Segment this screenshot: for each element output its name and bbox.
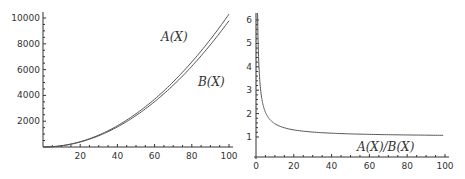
y-tick-label: 5 [246, 38, 252, 48]
x-tick-label: 40 [112, 151, 124, 161]
x-tick-label: 0 [253, 161, 259, 171]
label-ratio: A(X)/B(X) [356, 140, 415, 154]
curve-ratio [257, 13, 443, 135]
x-tick-label: 60 [149, 151, 161, 161]
figure: 20406080100200040006000800010000A(X)B(X)… [0, 0, 465, 179]
y-tick-label: 10000 [11, 13, 40, 23]
x-tick-label: 100 [436, 161, 453, 171]
y-tick-label: 6000 [17, 65, 40, 75]
y-tick-label: 3 [246, 85, 252, 95]
left-chart: 20406080100200040006000800010000A(X)B(X) [11, 12, 237, 161]
y-tick-label: 2 [246, 109, 252, 119]
y-tick-label: 4000 [17, 90, 40, 100]
x-tick-label: 40 [326, 161, 338, 171]
x-tick-label: 80 [186, 151, 198, 161]
x-tick-label: 20 [74, 151, 86, 161]
label-b: B(X) [197, 75, 225, 89]
x-tick-label: 80 [401, 161, 413, 171]
x-tick-label: 60 [364, 161, 376, 171]
y-tick-label: 8000 [17, 39, 40, 49]
x-tick-label: 100 [220, 151, 237, 161]
y-tick-label: 4 [246, 62, 252, 72]
y-tick-label: 1 [246, 132, 252, 142]
y-tick-label: 2000 [17, 116, 40, 126]
right-chart: 020406080100123456A(X)/B(X) [246, 13, 454, 171]
label-a: A(X) [160, 30, 188, 44]
x-tick-label: 20 [288, 161, 300, 171]
y-tick-label: 6 [246, 15, 252, 25]
